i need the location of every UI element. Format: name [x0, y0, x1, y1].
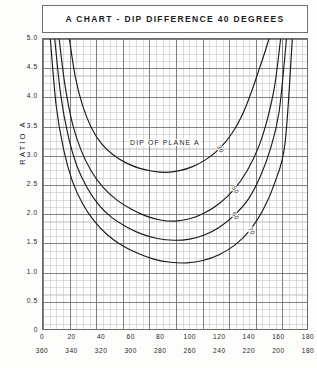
x-tick-label: 200: [263, 347, 293, 354]
curve-30: [69, 39, 268, 172]
dip-of-plane-annotation: DIP OF PLANE A: [129, 139, 201, 146]
y-tick-label: 5.0: [14, 34, 38, 41]
plot-area: DIP OF PLANE A 30506070: [42, 38, 308, 330]
chart-root: A CHART - DIP DIFFERENCE 40 DEGREES RATI…: [0, 0, 317, 368]
y-tick-label: 2.0: [14, 209, 38, 216]
x-tick-label: 300: [116, 347, 146, 354]
x-tick-label: 40: [86, 333, 116, 340]
x-tick-label: 140: [234, 333, 264, 340]
y-tick-label: 0.5: [14, 297, 38, 304]
y-tick-label: 4.0: [14, 92, 38, 99]
y-tick-label: 1.0: [14, 268, 38, 275]
y-tick-label: 4.5: [14, 63, 38, 70]
x-tick-label: 60: [116, 333, 146, 340]
y-tick-label: 3.0: [14, 151, 38, 158]
x-tick-label: 180: [293, 347, 317, 354]
x-tick-label: 120: [204, 333, 234, 340]
y-tick-label: 0: [14, 326, 38, 333]
curve-series-group: [43, 39, 307, 329]
y-axis-tick-labels: 5.04.54.03.53.02.52.01.51.00.50: [8, 0, 38, 368]
x-tick-label: 100: [175, 333, 205, 340]
x-tick-label: 320: [86, 347, 116, 354]
y-tick-label: 1.5: [14, 238, 38, 245]
x-axis-secondary-tick-labels: 360340320300280260240220200180: [0, 347, 317, 357]
y-tick-label: 2.5: [14, 180, 38, 187]
x-tick-label: 80: [145, 333, 175, 340]
x-tick-label: 360: [27, 347, 57, 354]
x-axis-primary-tick-labels: 020406080100120140160180: [0, 333, 317, 343]
x-tick-label: 260: [175, 347, 205, 354]
x-tick-label: 220: [234, 347, 264, 354]
chart-title-box: A CHART - DIP DIFFERENCE 40 DEGREES: [42, 5, 308, 33]
x-tick-label: 160: [263, 333, 293, 340]
x-tick-label: 180: [293, 333, 317, 340]
curve-70: [50, 39, 292, 263]
x-tick-label: 0: [27, 333, 57, 340]
x-tick-label: 20: [57, 333, 87, 340]
x-tick-label: 340: [57, 347, 87, 354]
page-title: A CHART - DIP DIFFERENCE 40 DEGREES: [65, 14, 284, 24]
x-tick-label: 280: [145, 347, 175, 354]
y-tick-label: 3.5: [14, 122, 38, 129]
x-tick-label: 240: [204, 347, 234, 354]
